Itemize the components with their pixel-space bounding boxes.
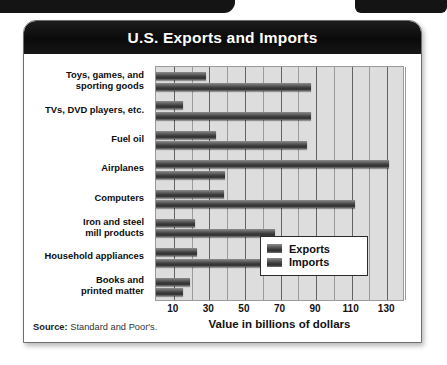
category-label-1: TVs, DVD players, etc. (45, 104, 144, 115)
category-label-4: Computers (95, 192, 144, 203)
bar-imports-5 (156, 229, 275, 237)
source-value: Standard and Poor's. (70, 322, 157, 332)
category-label-2: Fuel oil (111, 133, 144, 144)
x-tick-label-90: 90 (310, 303, 321, 314)
bar-exports-4 (156, 190, 224, 198)
legend-label-exports: Exports (289, 243, 330, 255)
bar-exports-0 (156, 72, 206, 80)
bar-imports-0 (156, 83, 311, 91)
category-label-7: Books andprinted matter (81, 274, 144, 296)
bar-exports-6 (156, 248, 197, 256)
x-tick-label-110: 110 (343, 303, 359, 314)
page-top-left-band (0, 0, 235, 13)
category-label-5: Iron and steelmill products (83, 216, 144, 238)
bar-imports-4 (156, 200, 355, 208)
x-tick-label-10: 10 (167, 303, 178, 314)
bar-imports-2 (156, 141, 307, 149)
chart-card: U.S. Exports and Imports Toys, games, an… (23, 20, 422, 343)
bar-imports-7 (156, 288, 183, 296)
chart-legend: Exports Imports (260, 236, 368, 276)
page-top-right-band (355, 0, 447, 13)
category-label-0: Toys, games, andsporting goods (66, 69, 144, 91)
bar-exports-7 (156, 278, 190, 286)
bar-exports-1 (156, 101, 183, 109)
legend-entry-exports: Exports (267, 243, 361, 255)
category-axis-labels: Toys, games, andsporting goodsTVs, DVD p… (28, 66, 150, 301)
gridline-minor (405, 67, 406, 300)
x-tick-label-50: 50 (238, 303, 249, 314)
x-axis-tick-labels: 1030507090110130 (155, 303, 404, 317)
category-label-6: Household appliances (45, 250, 145, 261)
legend-label-imports: Imports (289, 256, 329, 268)
x-axis-title: Value in billions of dollars (155, 318, 404, 330)
chart-title: U.S. Exports and Imports (128, 29, 318, 47)
legend-swatch-exports (267, 244, 282, 253)
bar-imports-6 (156, 259, 263, 267)
source-label: Source: (33, 322, 68, 332)
x-tick-label-130: 130 (378, 303, 395, 314)
bar-imports-3 (156, 171, 225, 179)
x-tick-label-30: 30 (203, 303, 214, 314)
x-tick-label-70: 70 (274, 303, 285, 314)
chart-body: Toys, games, andsporting goodsTVs, DVD p… (24, 54, 421, 343)
bar-exports-3 (156, 160, 389, 168)
legend-swatch-imports (267, 258, 282, 267)
bar-exports-5 (156, 219, 195, 227)
legend-entry-imports: Imports (267, 256, 361, 268)
bar-exports-2 (156, 131, 216, 139)
category-label-3: Airplanes (101, 162, 144, 173)
chart-title-bar: U.S. Exports and Imports (24, 21, 421, 54)
bar-imports-1 (156, 112, 311, 120)
source-note: Source: Standard and Poor's. (33, 322, 157, 332)
